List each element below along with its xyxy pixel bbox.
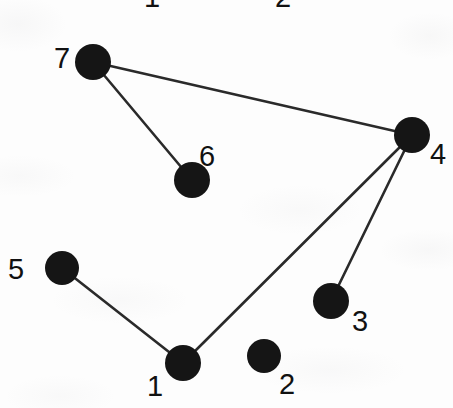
node-label-1: 1	[147, 372, 163, 401]
graph-figure: 1234567 12	[0, 0, 453, 408]
node-label-4: 4	[430, 140, 446, 169]
node-label-6: 6	[199, 142, 215, 171]
graph-node-1[interactable]	[165, 345, 201, 381]
node-label-7: 7	[54, 44, 70, 73]
node-label-5: 5	[8, 255, 24, 284]
node-label-3: 3	[352, 307, 368, 336]
graph-node-5[interactable]	[45, 251, 79, 285]
graph-edge-5-1	[62, 268, 183, 363]
graph-edge-4-1	[183, 135, 412, 363]
graph-node-4[interactable]	[394, 117, 430, 153]
graph-edge-4-3	[331, 135, 412, 301]
graph-node-7[interactable]	[75, 44, 111, 80]
node-label-2: 2	[279, 370, 295, 399]
top-label-1: 1	[144, 0, 160, 12]
graph-edge-7-6	[93, 62, 192, 180]
graph-edge-7-4	[93, 62, 412, 135]
top-label-2: 2	[275, 0, 291, 12]
graph-node-2[interactable]	[247, 339, 281, 373]
graph-node-3[interactable]	[313, 283, 349, 319]
